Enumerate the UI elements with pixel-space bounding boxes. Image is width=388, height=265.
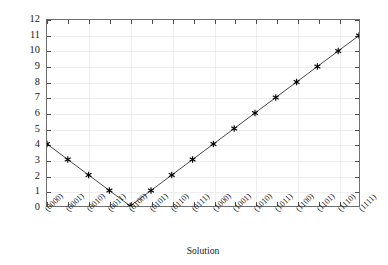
asterisk-marker — [231, 125, 237, 132]
chart-figure: Objective Value 0123456789101112 (0000)(… — [0, 0, 388, 265]
asterisk-marker — [190, 156, 196, 163]
asterisk-marker — [148, 187, 154, 194]
asterisk-marker — [169, 172, 175, 179]
y-tick-label: 9 — [0, 61, 40, 71]
y-tick-label: 10 — [0, 45, 40, 55]
y-tick-label: 7 — [0, 92, 40, 102]
y-tick-label: 8 — [0, 77, 40, 87]
asterisk-marker — [252, 110, 258, 117]
y-tick-label: 2 — [0, 171, 40, 181]
y-tick-label: 4 — [0, 139, 40, 149]
plot-area — [46, 19, 360, 207]
asterisk-marker — [65, 156, 71, 163]
line-series — [47, 20, 359, 206]
y-tick-label: 0 — [0, 202, 40, 212]
asterisk-marker — [86, 172, 92, 179]
y-tick-label: 3 — [0, 155, 40, 165]
y-tick-label: 6 — [0, 108, 40, 118]
y-tick-label: 12 — [0, 14, 40, 24]
asterisk-marker — [106, 187, 112, 194]
y-tick-label: 5 — [0, 124, 40, 134]
y-tick-label: 11 — [0, 30, 40, 40]
x-axis-title: Solution — [46, 245, 360, 256]
asterisk-marker — [294, 79, 300, 86]
asterisk-marker — [210, 141, 216, 148]
asterisk-marker — [273, 94, 279, 101]
series-line — [47, 36, 359, 206]
y-tick-label: 1 — [0, 186, 40, 196]
asterisk-marker — [335, 48, 341, 55]
asterisk-marker — [314, 63, 320, 70]
